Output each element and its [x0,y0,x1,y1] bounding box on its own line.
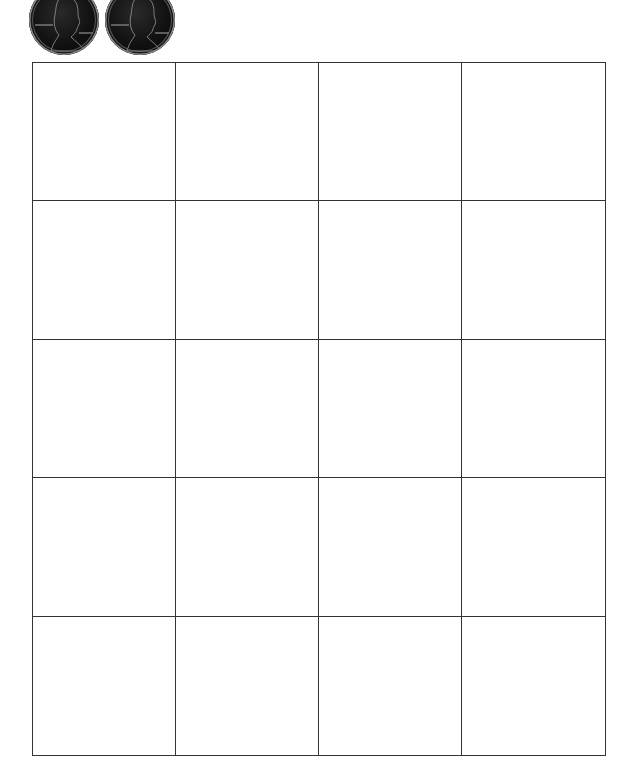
grid-cell-r5c2 [176,617,319,755]
grid-cell-r4c4 [462,478,605,616]
penny-coin-2 [105,0,175,55]
grid-cell-r2c1 [33,201,176,339]
grid-cell-r1c2 [176,63,319,201]
coin-row [0,0,637,60]
grid-cell-r2c3 [319,201,462,339]
grid-cell-r1c3 [319,63,462,201]
lincoln-profile-icon [105,0,175,55]
grid-cell-r5c4 [462,617,605,755]
grid-cell-r2c4 [462,201,605,339]
grid-cell-r3c3 [319,340,462,478]
grid-cell-r5c3 [319,617,462,755]
lincoln-profile-icon [29,0,99,55]
penny-coin-1 [29,0,99,55]
grid-cell-r4c3 [319,478,462,616]
worksheet-grid [32,62,606,756]
grid-cell-r3c2 [176,340,319,478]
grid-cell-r3c1 [33,340,176,478]
grid-cell-r4c1 [33,478,176,616]
grid-cell-r5c1 [33,617,176,755]
grid-cell-r3c4 [462,340,605,478]
grid-cell-r2c2 [176,201,319,339]
grid-cell-r4c2 [176,478,319,616]
grid-cell-r1c1 [33,63,176,201]
grid-cell-r1c4 [462,63,605,201]
